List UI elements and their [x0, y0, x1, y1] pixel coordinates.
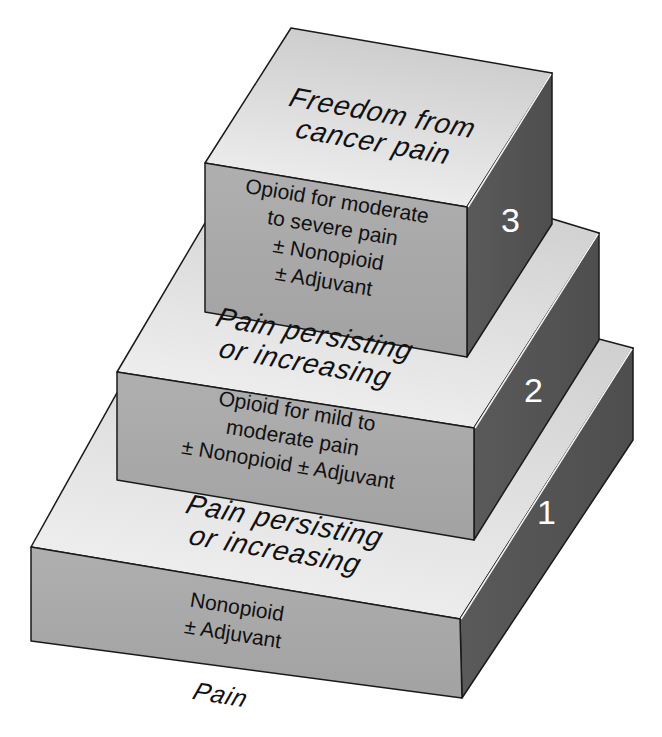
base-label-text: Pain: [190, 677, 253, 712]
step-2-number: 2: [524, 371, 543, 409]
step-3-number: 3: [501, 201, 520, 239]
base-label: Pain: [190, 677, 253, 712]
analgesic-ladder-diagram: Freedom from cancer pain Pain persisting…: [0, 0, 662, 737]
step-1-number: 1: [537, 493, 556, 531]
